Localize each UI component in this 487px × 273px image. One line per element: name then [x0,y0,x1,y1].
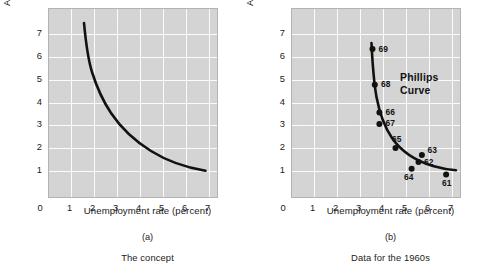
panel-b-ytick-7: 7 [271,27,285,38]
data-point-label-66: 66 [386,107,396,117]
panel-b-ytick-5: 5 [271,73,285,84]
phillips-curve-annotation: Phillips Curve [400,71,439,97]
panel-b-ytick-4: 4 [271,96,285,107]
panel-b-ytick-6: 6 [271,50,285,61]
panel-b-curve-svg: 69 68 66 67 65 63 62 64 61 [292,9,461,198]
data-point-66 [376,109,382,115]
phillips-curve-figure: Annual rate of inflation (percent) 0 [0,0,487,273]
panel-b-ytick-1: 1 [271,164,285,175]
data-point-68 [372,82,378,88]
data-point-label-67: 67 [386,118,396,128]
data-point-64 [409,166,415,172]
panel-a-plot-area [48,8,218,198]
panel-a-y-axis-title: Annual rate of inflation (percent) [2,0,28,44]
data-point-65 [393,145,399,151]
panel-b-ytick-2: 2 [271,141,285,152]
data-point-label-64: 64 [404,172,414,182]
data-point-label-63: 63 [428,145,438,155]
data-point-62 [416,159,422,165]
panel-a-x-axis-title: Unemployment rate (percent) [0,205,269,216]
panel-a-curve-svg [49,9,218,198]
data-point-label-65: 65 [392,134,402,144]
data-point-label-62: 62 [424,157,434,167]
panel-a-ytick-4: 4 [28,96,42,107]
data-point-label-61: 61 [442,178,452,188]
data-point-label-68: 68 [381,79,391,89]
panel-a: Annual rate of inflation (percent) 0 [0,0,243,273]
panel-a-ytick-7: 7 [28,27,42,38]
panel-a-ytick-2: 2 [28,141,42,152]
data-point-label-69: 69 [379,44,389,54]
panel-a-ytick-3: 3 [28,118,42,129]
panel-a-ytick-5: 5 [28,73,42,84]
panel-b-letter: (b) [243,232,487,242]
panel-b-y-axis-title: Annual rate of inflation (percent) [245,0,271,44]
panel-a-letter: (a) [0,232,269,242]
panel-b-fitted-curve [372,43,457,170]
panel-a-ytick-1: 1 [28,164,42,175]
panel-b-caption: Data for the 1960s [243,252,487,263]
panel-a-phillips-curve [84,23,206,171]
panel-b-ytick-3: 3 [271,118,285,129]
panel-b: Annual rate of inflation (percent) 6 [243,0,486,273]
panel-a-caption: The concept [0,252,269,263]
panel-b-x-axis-title: Unemployment rate (percent) [243,205,487,216]
data-point-67 [376,121,382,127]
panel-a-ytick-6: 6 [28,50,42,61]
data-point-69 [370,46,376,52]
panel-b-plot-area: 69 68 66 67 65 63 62 64 61 Phillips Curv… [291,8,461,198]
